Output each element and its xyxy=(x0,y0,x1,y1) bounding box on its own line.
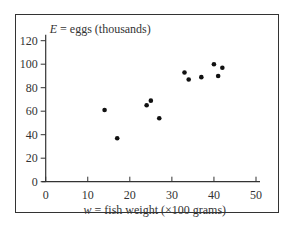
data-point xyxy=(102,108,107,113)
x-tick-label: 10 xyxy=(82,188,94,202)
y-tick-label: 20 xyxy=(26,151,38,165)
data-point xyxy=(212,62,217,67)
y-tick-label: 100 xyxy=(20,57,38,71)
y-tick-label: 0 xyxy=(32,175,38,189)
x-tick-label: 0 xyxy=(43,188,49,202)
y-tick-label: 120 xyxy=(20,34,38,48)
data-point xyxy=(157,116,162,121)
y-tick-label: 40 xyxy=(26,128,38,142)
data-point xyxy=(144,103,149,108)
x-tick-label: 50 xyxy=(250,188,262,202)
data-point xyxy=(220,65,225,70)
data-point xyxy=(186,77,191,82)
x-axis-label: w = fish weight (×100 grams) xyxy=(84,203,227,217)
x-tick-label: 20 xyxy=(124,188,136,202)
y-tick-label: 60 xyxy=(26,104,38,118)
data-point xyxy=(216,74,221,79)
data-point xyxy=(199,75,204,80)
data-point xyxy=(149,98,154,103)
scatter-plot: 02040608010012001020304050E = eggs (thou… xyxy=(0,0,296,232)
data-point xyxy=(182,70,187,75)
data-point xyxy=(115,136,120,141)
y-axis-label: E = eggs (thousands) xyxy=(49,22,151,36)
x-tick-label: 40 xyxy=(208,188,220,202)
x-tick-label: 30 xyxy=(166,188,178,202)
y-tick-label: 80 xyxy=(26,81,38,95)
